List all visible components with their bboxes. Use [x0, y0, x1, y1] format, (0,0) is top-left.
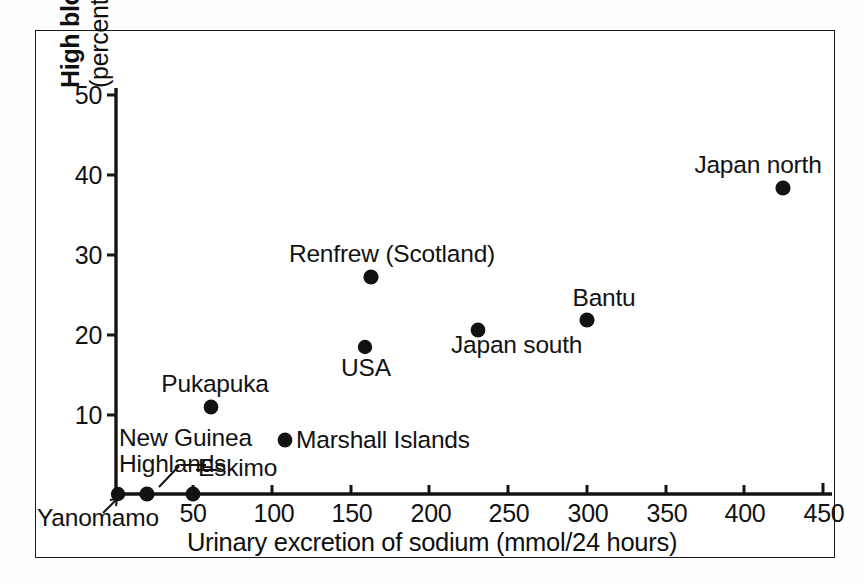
- x-tick-label-150: 150: [332, 499, 373, 528]
- point-label-renfrew-scotland: Renfrew (Scotland): [289, 241, 495, 267]
- y-tick-label-10: 10: [62, 401, 102, 430]
- y-tick-label-40: 40: [62, 161, 102, 190]
- point-label-bantu: Bantu: [572, 285, 635, 311]
- x-tick-label-200: 200: [411, 499, 452, 528]
- data-point-yanomamo: [111, 487, 125, 501]
- y-axis-title-line2: (percentage of population): [85, 0, 114, 88]
- point-label-eskimo: Eskimo: [198, 455, 277, 481]
- page-edge: [0, 584, 864, 588]
- x-tick-label-400: 400: [725, 499, 766, 528]
- point-label-japan-north: Japan north: [694, 152, 821, 178]
- x-tick-label-50: 50: [179, 499, 206, 528]
- x-tick-label-350: 350: [647, 499, 688, 528]
- x-axis-title: Urinary excretion of sodium (mmol/24 hou…: [0, 528, 864, 557]
- data-point-usa: [358, 340, 372, 354]
- point-label-usa: USA: [341, 355, 391, 381]
- point-label-marshall-islands: Marshall Islands: [296, 427, 470, 453]
- y-tick-label-30: 30: [62, 241, 102, 270]
- x-tick-label-450: 450: [804, 499, 845, 528]
- data-point-japan-north: [775, 180, 790, 195]
- point-label-japan-south: Japan south: [451, 332, 582, 358]
- x-tick-label-300: 300: [568, 499, 609, 528]
- figure-container: 50 40 30 20 10 50 100 150 200 250 300 35…: [0, 0, 864, 588]
- y-axis-title-line1: High blood pressure: [56, 0, 85, 88]
- y-tick-label-20: 20: [62, 321, 102, 350]
- point-label-new-guinea-line1: New Guinea: [119, 424, 252, 451]
- data-point-marshall-islands: [278, 433, 293, 448]
- data-point-pukapuka: [204, 400, 219, 415]
- point-label-pukapuka: Pukapuka: [161, 371, 268, 397]
- data-point-renfrew: [363, 269, 378, 284]
- data-point-new-guinea: [139, 486, 154, 501]
- y-axis-title: High blood pressure (percentage of popul…: [56, 0, 114, 88]
- x-tick-label-250: 250: [489, 499, 530, 528]
- data-point-bantu: [579, 312, 594, 327]
- x-tick-label-100: 100: [254, 499, 295, 528]
